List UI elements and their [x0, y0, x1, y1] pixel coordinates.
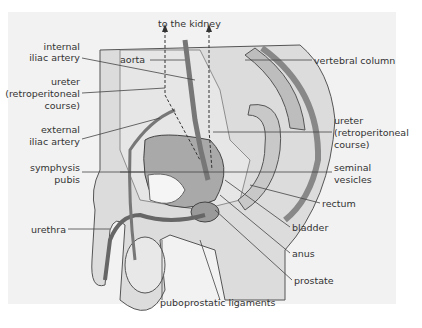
- label-ureter-left-line3: course): [0, 100, 80, 111]
- label-external-iliac-artery-line2: iliac artery: [10, 136, 80, 147]
- label-aorta: aorta: [120, 54, 145, 65]
- label-rectum: rectum: [322, 198, 356, 209]
- label-external-iliac-artery-line1: external: [10, 124, 80, 135]
- label-ureter-left-line2: (retroperitoneal: [0, 88, 80, 99]
- label-anus: anus: [292, 248, 315, 259]
- label-bladder: bladder: [292, 222, 328, 233]
- label-urethra: urethra: [10, 224, 66, 235]
- label-ureter-right-line1: ureter: [334, 115, 363, 126]
- label-internal-iliac-artery-line2: iliac artery: [20, 52, 80, 63]
- label-symphysis-pubis-line1: symphysis: [10, 162, 80, 173]
- label-to-the-kidney: to the kidney: [158, 18, 221, 29]
- label-puboprostatic-ligaments: puboprostatic ligaments: [160, 297, 275, 308]
- label-symphysis-pubis-line2: pubis: [10, 174, 80, 185]
- label-seminal-vesicles-line2: vesicles: [334, 174, 372, 185]
- label-ureter-right-line3: course): [334, 139, 369, 150]
- label-internal-iliac-artery-line1: internal: [20, 41, 80, 52]
- label-ureter-left-line1: ureter: [0, 76, 80, 87]
- label-prostate: prostate: [294, 275, 334, 286]
- label-vertebral-column: vertebral column: [314, 55, 395, 66]
- label-seminal-vesicles-line1: seminal: [334, 162, 371, 173]
- label-ureter-right-line2: (retroperitoneal: [334, 127, 409, 138]
